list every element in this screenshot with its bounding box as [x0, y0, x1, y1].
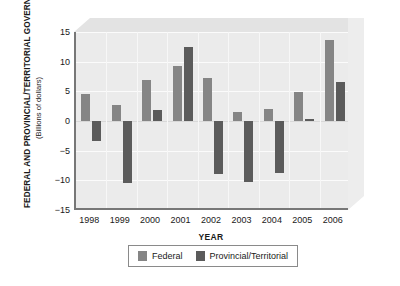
zero-line: [76, 121, 348, 122]
bar-provincial-territorial-2004: [275, 121, 284, 173]
y-axis-title-main: FEDERAL AND PROVINCIAL/TERRITORIAL GOVER…: [23, 8, 34, 208]
gridline-y-5: [76, 91, 348, 92]
bar-federal-2002: [203, 78, 212, 121]
bar-federal-1999: [112, 105, 121, 121]
bar-provincial-territorial-2006: [336, 82, 345, 121]
gridline-x-1: [106, 32, 107, 208]
legend-item-provincial: Provincial/Territorial: [196, 251, 289, 261]
y-axis-title-subtitle: (Billions of dollars): [34, 8, 44, 208]
bar-federal-2003: [233, 112, 242, 121]
gridline-x-5: [228, 32, 229, 208]
bar-provincial-territorial-2005: [305, 119, 314, 121]
bar-provincial-territorial-1998: [92, 121, 101, 141]
x-tick-label-2005: 2005: [285, 215, 319, 225]
x-tick-label-2002: 2002: [194, 215, 228, 225]
x-tick-label-2000: 2000: [133, 215, 167, 225]
legend-label-federal: Federal: [152, 251, 183, 261]
plot-area-3d: [74, 18, 364, 210]
bar-federal-2004: [264, 109, 273, 121]
legend-label-provincial: Provincial/Territorial: [210, 251, 289, 261]
bar-federal-1998: [81, 94, 90, 121]
gridline-x-7: [289, 32, 290, 208]
x-tick-label-2003: 2003: [224, 215, 258, 225]
gridline-x-3: [167, 32, 168, 208]
federal-swatch-icon: [138, 251, 147, 261]
bar-provincial-territorial-2003: [244, 121, 253, 182]
x-tick-label-1999: 1999: [103, 215, 137, 225]
plot-panel: [74, 32, 348, 210]
gridline-y-15: [76, 32, 348, 33]
gridline-y--5: [76, 151, 348, 152]
chart-figure: FEDERAL AND PROVINCIAL/TERRITORIAL GOVER…: [0, 0, 400, 286]
gridline-x-2: [137, 32, 138, 208]
x-axis-label: YEAR: [74, 232, 348, 242]
bar-federal-2005: [294, 92, 303, 121]
chart-legend: Federal Provincial/Territorial: [128, 245, 298, 267]
x-tick-label-1998: 1998: [72, 215, 106, 225]
legend-item-federal: Federal: [138, 251, 183, 261]
provincial-swatch-icon: [196, 251, 205, 261]
bar-provincial-territorial-2000: [153, 110, 162, 121]
x-tick-label-2004: 2004: [255, 215, 289, 225]
bar-provincial-territorial-2001: [184, 47, 193, 121]
bar-provincial-territorial-2002: [214, 121, 223, 174]
gridline-x-4: [198, 32, 199, 208]
bar-federal-2006: [325, 40, 334, 121]
gridline-y-10: [76, 62, 348, 63]
bar-provincial-territorial-1999: [123, 121, 132, 183]
y-axis-title: FEDERAL AND PROVINCIAL/TERRITORIAL GOVER…: [10, 8, 56, 208]
chart-3d-top-face: [74, 18, 364, 32]
gridline-x-6: [259, 32, 260, 208]
gridline-x-8: [320, 32, 321, 208]
x-tick-label-2001: 2001: [164, 215, 198, 225]
bar-federal-2001: [173, 66, 182, 121]
x-tick-label-2006: 2006: [316, 215, 350, 225]
bar-federal-2000: [142, 80, 151, 121]
gridline-y--10: [76, 180, 348, 181]
